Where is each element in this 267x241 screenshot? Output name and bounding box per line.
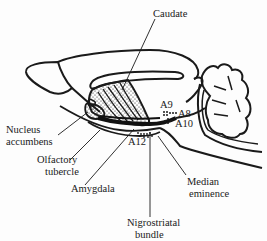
a8-dots bbox=[172, 112, 177, 114]
cerebellum-folia bbox=[212, 76, 240, 116]
label-olfactory-tubercle-2: tubercle bbox=[45, 166, 79, 177]
label-nucleus-accumbens-1: Nucleus bbox=[6, 124, 40, 135]
label-a9: A9 bbox=[160, 99, 173, 110]
label-a10: A10 bbox=[175, 118, 193, 129]
a9-dots bbox=[163, 111, 171, 116]
label-nigrostriatal-bundle-1: Nigrostriatal bbox=[127, 217, 180, 228]
olfactory-bulb-outline bbox=[26, 62, 72, 94]
cerebellum-outline bbox=[201, 64, 250, 137]
label-caudate: Caudate bbox=[153, 8, 187, 19]
label-median-eminence-1: Median bbox=[187, 176, 219, 187]
label-a12: A12 bbox=[128, 136, 146, 147]
brain-drawing bbox=[0, 0, 267, 241]
label-nigrostriatal-bundle-2: bundle bbox=[135, 229, 164, 240]
cortex-outline bbox=[58, 50, 198, 79]
label-amygdala: Amygdala bbox=[71, 183, 115, 194]
label-median-eminence-2: eminence bbox=[189, 188, 229, 199]
diagram-canvas: Caudate A9 A8 A10 A12 Nucleus accumbens … bbox=[0, 0, 267, 241]
brainstem-outline bbox=[160, 128, 262, 168]
label-nucleus-accumbens-2: accumbens bbox=[6, 136, 53, 147]
label-olfactory-tubercle-1: Olfactory bbox=[37, 154, 77, 165]
